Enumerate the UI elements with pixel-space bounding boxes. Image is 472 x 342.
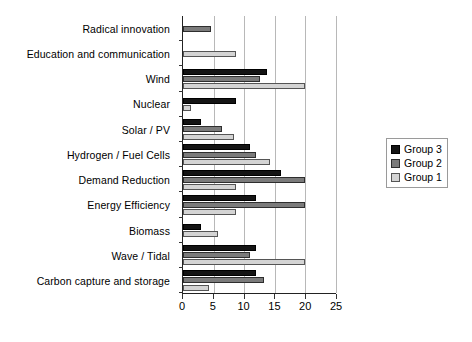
legend-label: Group 3 — [404, 143, 442, 155]
gridline — [336, 16, 337, 293]
bar-g2 — [183, 26, 211, 32]
y-axis-tick — [179, 292, 183, 293]
bar-g3 — [183, 144, 250, 150]
bar-g3 — [183, 270, 256, 276]
bar-g1 — [183, 184, 236, 190]
y-axis-label: Radical innovation — [0, 16, 176, 41]
legend-swatch-icon — [391, 145, 400, 154]
bar-g3 — [183, 98, 236, 104]
bar-g2 — [183, 76, 260, 82]
bar-g3 — [183, 69, 267, 75]
x-axis-tick — [274, 294, 275, 299]
x-axis-tick-label: 0 — [179, 300, 185, 312]
bar-g1 — [183, 51, 236, 57]
bar-group — [183, 16, 336, 41]
bar-g1 — [183, 231, 218, 237]
bar-g3 — [183, 245, 256, 251]
legend-label: Group 2 — [404, 157, 442, 169]
y-axis-label: Demand Reduction — [0, 168, 176, 193]
y-axis-label: Carbon capture and storage — [0, 269, 176, 294]
x-axis-tick — [336, 294, 337, 299]
x-axis-tick-label: 15 — [268, 300, 280, 312]
x-axis-tick-label: 10 — [237, 300, 249, 312]
bar-rows — [183, 16, 336, 293]
legend-swatch-icon — [391, 159, 400, 168]
bar-g1 — [183, 159, 270, 165]
x-axis-tick-label: 25 — [330, 300, 342, 312]
bar-g1 — [183, 105, 191, 111]
y-axis-label: Wave / Tidal — [0, 243, 176, 268]
bar-g2 — [183, 177, 305, 183]
bar-group — [183, 192, 336, 217]
legend-item[interactable]: Group 1 — [391, 170, 442, 184]
bar-g3 — [183, 195, 256, 201]
legend-swatch-icon — [391, 173, 400, 182]
chart-legend: Group 3Group 2Group 1 — [386, 138, 448, 188]
x-axis-tick-label: 5 — [210, 300, 216, 312]
bar-group — [183, 41, 336, 66]
bar-group — [183, 167, 336, 192]
bar-g2 — [183, 152, 256, 158]
bar-g2 — [183, 202, 305, 208]
bar-group — [183, 66, 336, 91]
bar-g1 — [183, 83, 305, 89]
y-axis-label: Hydrogen / Fuel Cells — [0, 142, 176, 167]
legend-item[interactable]: Group 2 — [391, 156, 442, 170]
bar-g1 — [183, 259, 305, 265]
bar-g3 — [183, 119, 201, 125]
bar-g2 — [183, 252, 250, 258]
bar-g3 — [183, 224, 201, 230]
bar-group — [183, 92, 336, 117]
bar-group — [183, 268, 336, 293]
bar-g3 — [183, 170, 281, 176]
x-axis-tick — [244, 294, 245, 299]
bar-group — [183, 142, 336, 167]
x-axis-tick — [213, 294, 214, 299]
x-axis-tick — [182, 294, 183, 299]
bar-g1 — [183, 134, 234, 140]
legend-item[interactable]: Group 3 — [391, 142, 442, 156]
bar-g1 — [183, 285, 209, 291]
y-axis-label: Solar / PV — [0, 117, 176, 142]
bar-g1 — [183, 209, 236, 215]
y-axis-category-labels: Radical innovationEducation and communic… — [0, 16, 176, 294]
y-axis-label: Energy Efficiency — [0, 193, 176, 218]
y-axis-label: Biomass — [0, 218, 176, 243]
y-axis-label: Wind — [0, 67, 176, 92]
plot-area — [182, 16, 336, 294]
x-axis-tick-label: 20 — [299, 300, 311, 312]
bar-g2 — [183, 126, 222, 132]
bar-g2 — [183, 277, 264, 283]
bar-chart: Radical innovationEducation and communic… — [0, 0, 472, 342]
legend-label: Group 1 — [404, 171, 442, 183]
y-axis-label: Education and communication — [0, 41, 176, 66]
y-axis-label: Nuclear — [0, 92, 176, 117]
x-axis-tick-labels: 0510152025 — [182, 300, 336, 318]
bar-group — [183, 243, 336, 268]
bar-group — [183, 117, 336, 142]
x-axis-tick — [305, 294, 306, 299]
bar-group — [183, 218, 336, 243]
